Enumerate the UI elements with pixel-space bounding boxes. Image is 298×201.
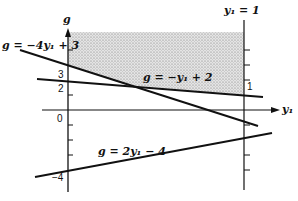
- shaded-feasible-region: [68, 32, 244, 95]
- y1-axis-label: y₁: [282, 104, 293, 115]
- tick-label-2: 2: [58, 84, 64, 94]
- diagram-canvas: [0, 0, 298, 201]
- origin-label: 0: [57, 114, 63, 124]
- tick-label-3: 3: [58, 70, 64, 80]
- y1-equals-1-label: y₁ = 1: [224, 5, 260, 16]
- y1-axis-arrow-icon: [271, 107, 280, 113]
- label-line-3: g = 2y₁ − 4: [98, 146, 166, 157]
- tick-label-right-1: 1: [247, 82, 253, 92]
- tick-label-minus4: −4: [52, 173, 63, 183]
- label-line-2: g = −y₁ + 2: [143, 72, 213, 83]
- label-line-1: g = −4y₁ + 3: [2, 40, 79, 51]
- g-axis-label: g: [63, 14, 71, 25]
